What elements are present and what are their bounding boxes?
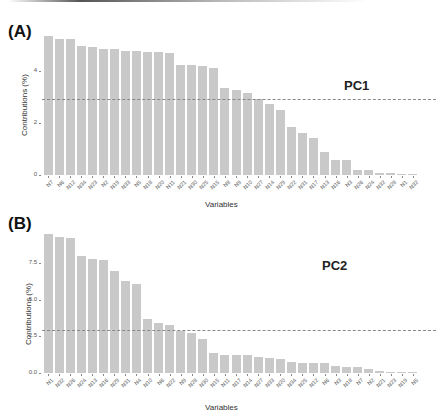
x-tick-mark [358,374,359,376]
x-tick-label: N6 [156,377,165,386]
x-tick-mark [325,374,326,376]
x-tick-label: N15 [209,377,220,388]
x-tick-mark [236,374,237,376]
x-tick-mark [280,374,281,376]
x-tick-mark [269,374,270,376]
x-tick-mark [70,374,71,376]
x-tick-label: N24 [76,377,87,388]
y-tick-label: 5.0 [15,296,37,302]
x-tick-label: N2 [366,377,375,386]
y-tick-label: 0.0 [15,369,37,375]
bar-n11 [220,355,229,373]
chart-panel-b: (B) PC2 Contributions (%) Variables N1N3… [0,0,440,420]
bar-n5 [408,372,417,373]
x-tick-mark [402,374,403,376]
bar-n21 [375,371,384,373]
bar-n9 [176,331,185,373]
bar-n20 [276,359,285,373]
x-tick-label: N13 [87,377,98,388]
bar-n1 [44,234,53,373]
bar-n2 [364,369,373,373]
x-tick-mark [159,374,160,376]
y-tick-mark [39,263,41,264]
bar-n10 [143,319,152,373]
x-tick-label: N23 [386,377,397,388]
x-tick-label: N16 [98,377,109,388]
bar-n3 [331,366,340,373]
y-tick-mark [39,373,41,374]
bar-n15 [209,353,218,373]
x-tick-mark [181,374,182,376]
bar-n18 [342,367,351,373]
x-tick-label: N9 [178,377,187,386]
y-tick-mark [39,300,41,301]
bar-n19 [397,372,406,373]
x-tick-label: N20 [275,377,286,388]
bar-n14 [243,355,252,373]
x-tick-label: N26 [65,377,76,388]
x-tick-mark [291,374,292,376]
x-tick-mark [92,374,93,376]
x-tick-label: N5 [410,377,419,386]
bar-n13 [88,259,97,373]
x-tick-label: N6 [322,377,331,386]
x-tick-mark [81,374,82,376]
x-tick-mark [170,374,171,376]
reference-line [42,330,436,331]
panel-label-b: (B) [8,214,32,234]
x-tick-label: N32 [54,377,65,388]
x-tick-label: N25 [297,377,308,388]
bar-n32 [55,237,64,373]
x-tick-mark [369,374,370,376]
bar-n31 [121,281,130,373]
bar-n26 [66,238,75,373]
x-tick-label: N21 [375,377,386,388]
bar-n16 [99,260,108,373]
x-tick-mark [313,374,314,376]
x-tick-label: N27 [253,377,264,388]
x-tick-mark [136,374,137,376]
x-tick-mark [247,374,248,376]
x-tick-label: N28 [187,377,198,388]
x-tick-mark [125,374,126,376]
x-tick-mark [302,374,303,376]
x-tick-mark [413,374,414,376]
x-tick-label: N1 [45,377,54,386]
bar-n30 [198,339,207,373]
x-tick-mark [214,374,215,376]
bar-n17 [232,355,241,373]
x-axis-label-b: Variables [205,403,238,412]
bar-n34 [287,362,296,373]
bar-n22 [165,325,174,373]
x-tick-mark [48,374,49,376]
bar-n12 [309,363,318,373]
y-tick-mark [39,336,41,337]
x-tick-label: N30 [198,377,209,388]
x-tick-mark [103,374,104,376]
bar-n27 [254,357,263,373]
x-tick-label: N12 [308,377,319,388]
x-tick-mark [336,374,337,376]
x-tick-label: N19 [397,377,408,388]
bar-n24 [77,256,86,373]
x-tick-label: N14 [242,377,253,388]
x-tick-label: N17 [231,377,242,388]
x-tick-label: N11 [220,377,231,388]
x-tick-mark [391,374,392,376]
bar-n7 [353,367,362,373]
x-tick-mark [347,374,348,376]
x-tick-label: N4 [134,377,143,386]
x-tick-mark [192,374,193,376]
bar-n29 [110,271,119,373]
x-tick-label: N7 [355,377,364,386]
x-tick-label: N34 [286,377,297,388]
bar-n25 [298,363,307,373]
x-tick-label: N29 [109,377,120,388]
x-tick-label: N3 [333,377,342,386]
x-tick-mark [59,374,60,376]
y-tick-label: 7.5 [15,259,37,265]
x-tick-mark [380,374,381,376]
x-tick-label: N22 [165,377,176,388]
x-tick-mark [203,374,204,376]
bar-n23 [386,372,395,373]
